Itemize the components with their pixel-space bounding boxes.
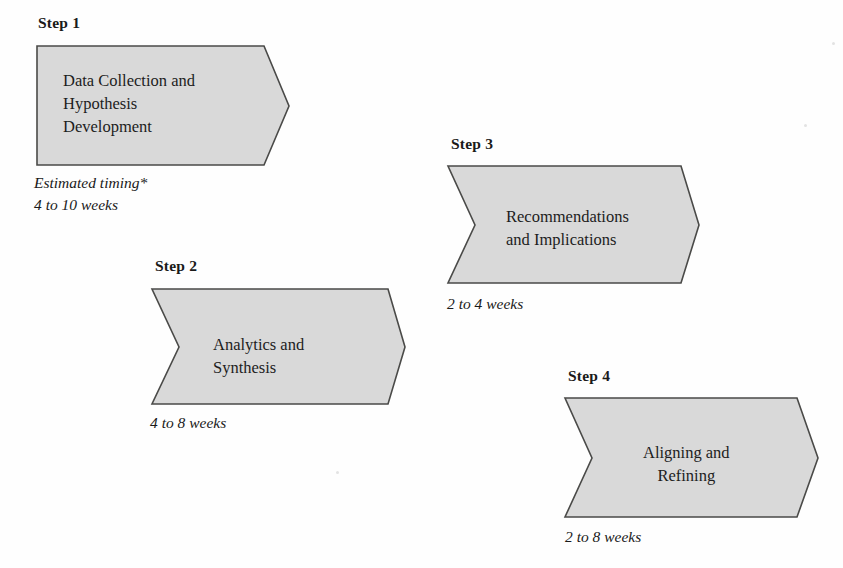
step-4-label: Step 4 bbox=[568, 367, 610, 385]
step-4-group: Step 4 Aligning and Refining 2 to 8 week… bbox=[0, 0, 843, 560]
step-4-timing-value: 2 to 8 weeks bbox=[565, 526, 641, 548]
diagram-canvas: Step 1 Data Collection and Hypothesis De… bbox=[0, 0, 843, 568]
step-4-body-line-2: Refining bbox=[643, 464, 730, 487]
step-4-timing: 2 to 8 weeks bbox=[565, 526, 641, 548]
step-4-body-text: Aligning and Refining bbox=[643, 441, 730, 487]
step-4-body-line-1: Aligning and bbox=[643, 441, 730, 464]
